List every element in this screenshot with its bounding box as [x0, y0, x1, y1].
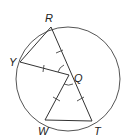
angle-arc-RQY	[58, 65, 64, 72]
point-label-Y: Y	[9, 56, 17, 68]
segment-RY	[20, 27, 51, 62]
segment-YQ	[20, 62, 69, 75]
point-label-W: W	[38, 125, 50, 137]
angle-arc-WQT	[64, 84, 73, 85]
segment-RT	[51, 27, 92, 121]
circle-diagram: R Y Q W T	[0, 0, 130, 139]
circle	[16, 27, 120, 131]
segment-WT	[45, 120, 92, 121]
point-label-T: T	[94, 125, 102, 137]
tick-mark-YQ	[43, 65, 44, 72]
point-label-Q: Q	[74, 72, 83, 84]
segment-QW	[45, 75, 69, 120]
point-label-R: R	[45, 12, 53, 24]
